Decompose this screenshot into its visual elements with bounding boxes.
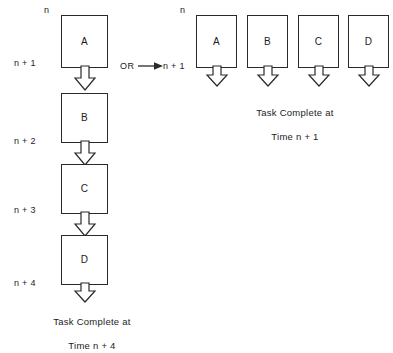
parallel-task-letter-b: B	[248, 36, 287, 47]
parallel-task-letter-c: C	[299, 36, 338, 47]
sequential-output-arrow	[74, 283, 96, 303]
parallel-time-label-n-plus-1: n + 1	[163, 61, 185, 71]
sequential-task-box-d: D	[61, 235, 108, 285]
parallel-caption-line1: Task Complete at	[222, 107, 368, 119]
parallel-output-arrow-d	[358, 66, 380, 87]
parallel-output-arrow-b	[257, 66, 279, 87]
sequential-task-letter-b: B	[62, 112, 107, 123]
sequential-caption-line2: Time n + 4	[12, 340, 172, 352]
sequential-time-label-n-plus-2: n + 2	[14, 136, 36, 146]
parallel-task-box-a: A	[196, 15, 237, 68]
or-label: OR	[120, 61, 134, 71]
sequential-connector-arrow-b-c	[74, 141, 96, 166]
parallel-task-letter-a: A	[197, 36, 236, 47]
sequential-task-box-b: B	[61, 93, 108, 143]
or-connector-group: OR	[120, 61, 164, 71]
sequential-connector-arrow-a-b	[74, 66, 96, 91]
sequential-task-box-a: A	[61, 15, 108, 68]
sequential-time-label-n: n	[44, 5, 49, 15]
sequential-time-label-n-plus-3: n + 3	[14, 205, 36, 215]
parallel-caption-line2: Time n + 1	[222, 131, 368, 143]
sequential-task-letter-d: D	[62, 254, 107, 265]
parallel-caption: Task Complete at Time n + 1	[222, 95, 368, 155]
parallel-output-arrow-c	[308, 66, 330, 87]
sequential-task-letter-c: C	[62, 183, 107, 194]
parallel-task-letter-d: D	[349, 36, 388, 47]
sequential-task-box-c: C	[61, 164, 108, 214]
parallel-output-arrow-a	[206, 66, 228, 87]
sequential-task-letter-a: A	[62, 36, 107, 47]
arrow-right-icon	[138, 61, 164, 71]
parallel-task-box-b: B	[247, 15, 288, 68]
sequential-time-label-n-plus-1: n + 1	[14, 58, 36, 68]
parallel-task-box-d: D	[348, 15, 389, 68]
sequential-connector-arrow-c-d	[74, 212, 96, 237]
parallel-time-label-n: n	[180, 5, 185, 15]
sequential-caption-line1: Task Complete at	[12, 316, 172, 328]
parallel-task-box-c: C	[298, 15, 339, 68]
sequential-time-label-n-plus-4: n + 4	[14, 278, 36, 288]
sequential-caption: Task Complete at Time n + 4	[12, 304, 172, 353]
